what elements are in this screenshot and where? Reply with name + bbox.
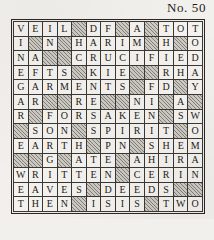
grid-cell-letter[interactable]: R bbox=[159, 168, 174, 183]
grid-cell-letter[interactable]: D bbox=[188, 51, 203, 66]
grid-cell-letter[interactable]: D bbox=[145, 183, 160, 198]
grid-cell-letter[interactable]: H bbox=[29, 197, 44, 212]
grid-cell-letter[interactable]: S bbox=[130, 197, 145, 212]
grid-cell-letter[interactable]: T bbox=[14, 197, 29, 212]
grid-cell-letter[interactable]: E bbox=[145, 168, 160, 183]
grid-cell-letter[interactable]: H bbox=[145, 154, 160, 169]
grid-cell-letter[interactable]: H bbox=[159, 139, 174, 154]
grid-cell-letter[interactable]: R bbox=[159, 66, 174, 81]
grid-cell-letter[interactable]: V bbox=[43, 183, 58, 198]
grid-cell-letter[interactable]: S bbox=[72, 183, 87, 198]
grid-cell-letter[interactable]: R bbox=[43, 139, 58, 154]
grid-cell-letter[interactable]: A bbox=[188, 66, 203, 81]
grid-cell-letter[interactable]: T bbox=[101, 80, 116, 95]
grid-cell-letter[interactable]: A bbox=[174, 95, 189, 110]
grid-cell-letter[interactable]: I bbox=[116, 37, 131, 52]
grid-cell-letter[interactable]: E bbox=[130, 183, 145, 198]
grid-cell-letter[interactable]: I bbox=[159, 154, 174, 169]
grid-cell-letter[interactable]: D bbox=[101, 183, 116, 198]
grid-cell-letter[interactable]: C bbox=[116, 51, 131, 66]
grid-cell-letter[interactable]: R bbox=[29, 168, 44, 183]
grid-cell-letter[interactable]: W bbox=[174, 197, 189, 212]
grid-cell-letter[interactable]: K bbox=[116, 110, 131, 125]
grid-cell-letter[interactable]: R bbox=[87, 51, 102, 66]
grid-cell-letter[interactable]: I bbox=[43, 22, 58, 37]
grid-cell-letter[interactable]: I bbox=[87, 197, 102, 212]
grid-cell-letter[interactable]: O bbox=[58, 110, 73, 125]
grid-cell-letter[interactable]: E bbox=[72, 80, 87, 95]
grid-cell-letter[interactable]: A bbox=[72, 154, 87, 169]
grid-cell-letter[interactable]: T bbox=[87, 154, 102, 169]
grid-cell-letter[interactable]: I bbox=[101, 66, 116, 81]
grid-cell-letter[interactable]: C bbox=[130, 168, 145, 183]
grid-cell-letter[interactable]: I bbox=[116, 124, 131, 139]
grid-cell-letter[interactable]: U bbox=[101, 51, 116, 66]
grid-cell-letter[interactable]: E bbox=[116, 183, 131, 198]
grid-cell-letter[interactable]: S bbox=[159, 183, 174, 198]
grid-cell-letter[interactable]: H bbox=[159, 37, 174, 52]
grid-cell-letter[interactable]: T bbox=[159, 197, 174, 212]
grid-cell-letter[interactable]: R bbox=[72, 95, 87, 110]
grid-cell-letter[interactable]: A bbox=[14, 95, 29, 110]
grid-cell-letter[interactable]: A bbox=[29, 51, 44, 66]
grid-cell-letter[interactable]: E bbox=[43, 197, 58, 212]
grid-cell-letter[interactable]: E bbox=[14, 183, 29, 198]
grid-cell-letter[interactable]: O bbox=[188, 124, 203, 139]
grid-cell-letter[interactable]: A bbox=[29, 80, 44, 95]
grid-cell-letter[interactable]: V bbox=[14, 22, 29, 37]
grid-cell-letter[interactable]: S bbox=[58, 66, 73, 81]
grid-cell-letter[interactable]: T bbox=[58, 168, 73, 183]
grid-cell-letter[interactable]: I bbox=[145, 124, 160, 139]
grid-cell-letter[interactable]: S bbox=[87, 110, 102, 125]
grid-cell-letter[interactable]: R bbox=[174, 154, 189, 169]
grid-cell-letter[interactable]: M bbox=[130, 37, 145, 52]
grid-cell-letter[interactable]: O bbox=[188, 37, 203, 52]
grid-cell-letter[interactable]: N bbox=[101, 168, 116, 183]
grid-cell-letter[interactable]: E bbox=[130, 110, 145, 125]
grid-cell-letter[interactable]: T bbox=[159, 124, 174, 139]
grid-cell-letter[interactable]: R bbox=[14, 110, 29, 125]
grid-cell-letter[interactable]: O bbox=[43, 124, 58, 139]
grid-cell-letter[interactable]: T bbox=[188, 22, 203, 37]
grid-cell-letter[interactable]: N bbox=[130, 95, 145, 110]
grid-cell-letter[interactable]: A bbox=[101, 110, 116, 125]
grid-cell-letter[interactable]: N bbox=[43, 37, 58, 52]
grid-cell-letter[interactable]: C bbox=[72, 51, 87, 66]
grid-cell-letter[interactable]: F bbox=[145, 51, 160, 66]
grid-cell-letter[interactable]: T bbox=[58, 139, 73, 154]
grid-cell-letter[interactable]: S bbox=[145, 139, 160, 154]
grid-cell-letter[interactable]: F bbox=[145, 80, 160, 95]
grid-cell-letter[interactable]: E bbox=[14, 139, 29, 154]
grid-cell-letter[interactable]: A bbox=[130, 22, 145, 37]
grid-cell-letter[interactable]: O bbox=[174, 22, 189, 37]
grid-cell-letter[interactable]: E bbox=[14, 66, 29, 81]
grid-cell-letter[interactable]: S bbox=[174, 110, 189, 125]
grid-cell-letter[interactable]: E bbox=[174, 139, 189, 154]
grid-cell-letter[interactable]: A bbox=[29, 139, 44, 154]
grid-cell-letter[interactable]: I bbox=[130, 51, 145, 66]
grid-cell-letter[interactable]: I bbox=[14, 37, 29, 52]
grid-cell-letter[interactable]: R bbox=[29, 95, 44, 110]
grid-cell-letter[interactable]: F bbox=[101, 22, 116, 37]
grid-cell-letter[interactable]: P bbox=[101, 139, 116, 154]
grid-cell-letter[interactable]: P bbox=[101, 124, 116, 139]
grid-cell-letter[interactable]: N bbox=[116, 139, 131, 154]
grid-cell-letter[interactable]: N bbox=[87, 80, 102, 95]
grid-cell-letter[interactable]: A bbox=[87, 37, 102, 52]
grid-cell-letter[interactable]: H bbox=[72, 37, 87, 52]
grid-cell-letter[interactable]: A bbox=[188, 154, 203, 169]
grid-cell-letter[interactable]: O bbox=[188, 197, 203, 212]
grid-cell-letter[interactable]: I bbox=[116, 197, 131, 212]
grid-cell-letter[interactable]: I bbox=[174, 168, 189, 183]
grid-cell-letter[interactable]: G bbox=[43, 154, 58, 169]
grid-cell-letter[interactable]: T bbox=[72, 168, 87, 183]
grid-cell-letter[interactable]: W bbox=[14, 168, 29, 183]
grid-cell-letter[interactable]: E bbox=[29, 22, 44, 37]
grid-cell-letter[interactable]: A bbox=[29, 183, 44, 198]
grid-cell-letter[interactable]: S bbox=[87, 124, 102, 139]
grid-cell-letter[interactable]: E bbox=[58, 183, 73, 198]
grid-cell-letter[interactable]: S bbox=[29, 124, 44, 139]
grid-cell-letter[interactable]: K bbox=[87, 66, 102, 81]
grid-cell-letter[interactable]: W bbox=[188, 110, 203, 125]
grid-cell-letter[interactable]: N bbox=[145, 110, 160, 125]
